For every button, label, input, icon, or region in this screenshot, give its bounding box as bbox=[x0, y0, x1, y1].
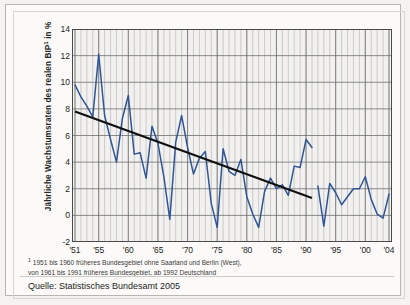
x-tick-label: '85 bbox=[271, 245, 282, 255]
x-tick-label: '70 bbox=[182, 245, 193, 255]
y-tick-label: 8 bbox=[65, 104, 70, 114]
chart-plot-svg bbox=[72, 29, 392, 242]
y-tick-label: 10 bbox=[61, 77, 70, 87]
y-tick-label: 0 bbox=[65, 210, 70, 220]
x-tick-label: '65 bbox=[152, 245, 163, 255]
x-tick-label: '55 bbox=[93, 245, 104, 255]
x-tick-label: '80 bbox=[241, 245, 252, 255]
y-tick-label: 12 bbox=[61, 51, 70, 61]
plot-area bbox=[72, 29, 392, 242]
x-tick-label: '51 bbox=[69, 245, 80, 255]
y-tick-label: 4 bbox=[65, 157, 70, 167]
x-tick-label: '60 bbox=[123, 245, 134, 255]
y-tick-label: 14 bbox=[61, 24, 70, 34]
chart-figure: Jährliche Wachstumsraten des realen BIP1… bbox=[0, 0, 410, 305]
y-tick-label: 6 bbox=[65, 131, 70, 141]
y-tick-label: 2 bbox=[65, 184, 70, 194]
x-tick-label: '75 bbox=[212, 245, 223, 255]
chart-card: Jährliche Wachstumsraten des realen BIP1… bbox=[5, 4, 401, 296]
footnote-line-1: 1951 bis 1960 früheres Bundesgebiet ohne… bbox=[31, 259, 242, 266]
x-tick-label: '90 bbox=[301, 245, 312, 255]
x-tick-label: '00 bbox=[360, 245, 371, 255]
source-caption: Quelle: Statistisches Bundesamt 2005 bbox=[28, 281, 180, 291]
footer-divider bbox=[20, 276, 394, 277]
y-axis-tick-labels: 14121086420-2 bbox=[46, 29, 70, 242]
x-tick-label: '95 bbox=[330, 245, 341, 255]
x-tick-label: '04 bbox=[383, 245, 394, 255]
